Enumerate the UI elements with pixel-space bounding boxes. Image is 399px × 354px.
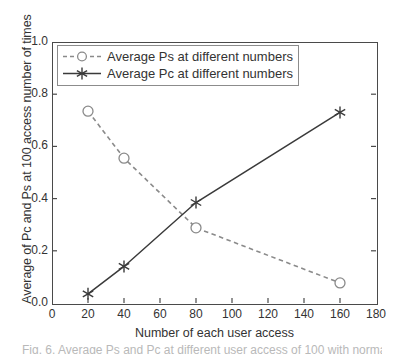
chart-figure: Average of Pc and Ps at 100 access numbe… bbox=[0, 0, 399, 354]
chart-legend: Average Ps at different numbers Average … bbox=[57, 45, 299, 86]
y-tick-label: 0.4 bbox=[2, 191, 48, 205]
x-tick-label: 160 bbox=[320, 307, 360, 321]
legend-item-pc: Average Pc at different numbers bbox=[61, 65, 293, 82]
x-tick-label: 80 bbox=[176, 307, 216, 321]
legend-label-ps: Average Ps at different numbers bbox=[103, 49, 293, 64]
y-tick-label: 0.6 bbox=[2, 138, 48, 152]
x-tick-label: 0 bbox=[32, 307, 72, 321]
x-tick-label: 180 bbox=[356, 307, 396, 321]
x-tick-label: 20 bbox=[68, 307, 108, 321]
legend-swatch-solid-asterisk-icon bbox=[61, 65, 103, 82]
legend-swatch-dashed-circle-icon bbox=[61, 48, 103, 65]
x-tick-label: 100 bbox=[212, 307, 252, 321]
caption-remnant: Fig. 6. Average Ps and Pc at different u… bbox=[22, 343, 382, 354]
y-tick-label: 1.0 bbox=[2, 34, 48, 48]
legend-item-ps: Average Ps at different numbers bbox=[61, 48, 293, 65]
legend-label-pc: Average Pc at different numbers bbox=[103, 66, 293, 81]
x-tick-label: 40 bbox=[104, 307, 144, 321]
x-tick-label: 140 bbox=[284, 307, 324, 321]
y-tick-label: 0.8 bbox=[2, 86, 48, 100]
x-tick-label: 120 bbox=[248, 307, 288, 321]
y-tick-label-group: 0.00.20.40.60.81.0 bbox=[0, 0, 48, 354]
x-tick-label: 60 bbox=[140, 307, 180, 321]
y-tick-label: 0.2 bbox=[2, 243, 48, 257]
x-axis-label: Number of each user access bbox=[52, 326, 377, 340]
